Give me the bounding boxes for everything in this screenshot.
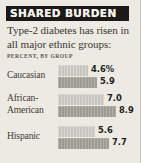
bar-value-hispanic-later: 7.7 <box>112 137 127 148</box>
axis-note-label: PERCENT, BY GROUP <box>7 53 73 59</box>
group-label-hispanic: Hispanic <box>7 130 57 142</box>
group-label-line-2: American <box>7 104 44 115</box>
bar-hispanic-later <box>58 138 109 149</box>
group-label-line-1: African- <box>7 92 38 103</box>
bar-hispanic-earlier <box>58 126 95 137</box>
infographic-panel: SHARED BURDEN Type-2 diabetes has risen … <box>0 0 141 163</box>
subtitle-text: Type-2 diabetes has risen in all major e… <box>7 24 135 51</box>
header-bar: SHARED BURDEN <box>6 6 129 21</box>
bar-chart: Caucasian 4.6% 5.9 African- American <box>0 63 141 161</box>
bar-african-american-later <box>58 106 116 117</box>
bar-value-hispanic-earlier: 5.6 <box>98 125 113 136</box>
bar-caucasian-later <box>58 77 97 88</box>
page-title: SHARED BURDEN <box>10 7 117 20</box>
bar-value-caucasian-earlier: 4.6% <box>91 64 114 75</box>
bar-value-caucasian-later: 5.9 <box>100 76 115 87</box>
group-label-caucasian: Caucasian <box>7 69 57 81</box>
bar-african-american-earlier <box>58 94 104 105</box>
bar-value-african-american-later: 8.9 <box>119 105 134 116</box>
group-label-african-american: African- American <box>7 92 57 115</box>
bar-caucasian-earlier <box>58 65 88 76</box>
bar-value-african-american-earlier: 7.0 <box>107 93 122 104</box>
